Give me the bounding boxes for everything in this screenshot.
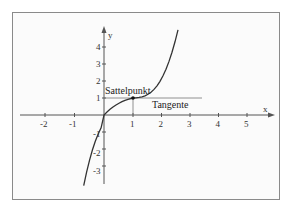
x-tick-label: 4 (216, 119, 221, 129)
x-axis-label: x (263, 104, 268, 114)
y-axis-label: y (108, 30, 113, 40)
x-tick-label: 3 (187, 119, 192, 129)
y-tick-label: -3 (93, 166, 101, 176)
x-tick-label: -2 (40, 119, 48, 129)
y-tick-label: 3 (96, 59, 101, 69)
x-axis (20, 113, 275, 118)
saddle-point-label: Sattelpunkt (105, 85, 151, 96)
tangent-label: Tangente (152, 99, 189, 110)
x-tick-label: 5 (244, 119, 249, 129)
y-tick-label: 4 (96, 42, 101, 52)
y-tick-label: -2 (93, 148, 101, 158)
x-tick-label: -1 (69, 119, 77, 129)
saddle-point-marker (131, 96, 135, 100)
x-tick-label: 2 (159, 119, 164, 129)
x-tick-label: 1 (130, 119, 135, 129)
y-tick-label: 2 (96, 76, 101, 86)
y-tick-label: 1 (96, 93, 101, 103)
function-graph: x -2 -1 1 2 3 4 5 y 1 2 3 4 -1 -2 -3 Sat… (0, 0, 293, 214)
y-axis (102, 26, 107, 184)
